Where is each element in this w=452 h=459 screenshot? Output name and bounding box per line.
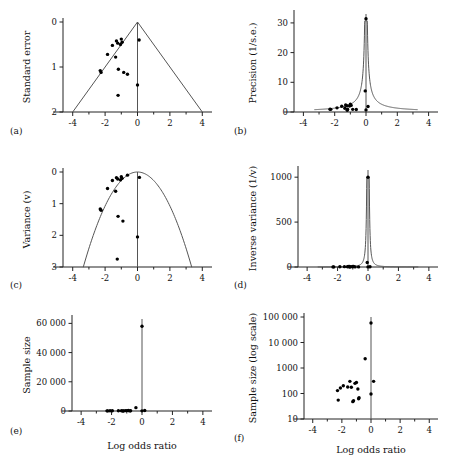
data-point [120, 37, 123, 40]
data-point [350, 386, 353, 389]
y-axis-title: Precision (1/s.e.) [247, 23, 258, 104]
data-point [143, 409, 146, 412]
funnel-boundary [314, 21, 365, 110]
data-point [355, 381, 358, 384]
x-tick-label: 4 [427, 425, 432, 435]
panel-tag: (b) [234, 126, 247, 136]
x-tick-label: 2 [167, 118, 172, 128]
data-point [121, 219, 124, 222]
data-point [369, 392, 372, 395]
plot-e: 020 00040 00060 000-4-2024Sample sizeLog… [0, 301, 226, 459]
data-point [137, 38, 140, 41]
x-tick-label: -4 [69, 273, 77, 283]
y-axis-title: Inverse variance (1/v) [247, 166, 258, 271]
y-tick-label: 0 [52, 167, 57, 177]
x-tick-label: -2 [107, 417, 115, 427]
data-point [366, 105, 369, 108]
data-point [364, 108, 367, 111]
y-tick-label: 500 [276, 217, 292, 227]
data-point [129, 409, 132, 412]
data-point [339, 386, 342, 389]
x-tick-label: 2 [167, 273, 172, 283]
panel-tag: (d) [234, 280, 247, 290]
x-tick-label: 4 [426, 273, 431, 283]
y-tick-label: 1 [52, 199, 57, 209]
x-tick-label: -4 [299, 118, 307, 128]
x-tick-label: -2 [333, 273, 341, 283]
y-tick-label: 2 [52, 230, 57, 240]
data-point [111, 409, 114, 412]
data-point [364, 17, 367, 20]
funnel-plot-figure: 012-4-2024Standard error(a) 0102030-4-20… [0, 0, 452, 459]
panel-d-inverse-variance: 05001000-4-2024Inverse variance (1/v)(d) [226, 148, 452, 301]
data-point [353, 265, 356, 268]
y-axis-title: Sample size (log scale) [247, 313, 258, 423]
x-tick-label: -4 [77, 417, 85, 427]
data-points [105, 325, 146, 413]
funnel-boundary [368, 177, 418, 267]
data-point [136, 83, 139, 86]
data-point [111, 44, 114, 47]
x-tick-label: 4 [200, 273, 205, 283]
data-point [357, 265, 360, 268]
panel-b-precision: 0102030-4-2024Precision (1/s.e.)(b) [226, 0, 452, 148]
x-axis-title: Log odds ratio [336, 444, 406, 455]
data-point [372, 380, 375, 383]
y-tick-label: 20 [277, 48, 288, 58]
y-tick-label: 1000 [270, 172, 292, 182]
x-tick-label: 0 [135, 118, 140, 128]
data-point [106, 187, 109, 190]
y-tick-label: 1 [52, 62, 57, 72]
x-tick-label: -4 [303, 273, 311, 283]
data-point [351, 108, 354, 111]
data-point [136, 235, 139, 238]
x-tick-label: 4 [200, 118, 205, 128]
y-tick-label: 10 [277, 77, 288, 87]
data-point [363, 357, 366, 360]
data-point [117, 409, 120, 412]
x-tick-label: -4 [309, 425, 317, 435]
plot-f: 10100100010 000100 000-4-2024Sample size… [226, 301, 452, 459]
y-tick-label: 30 [277, 18, 288, 28]
data-point [366, 175, 369, 178]
data-point [120, 41, 123, 44]
data-point [99, 71, 102, 74]
data-point [369, 321, 372, 324]
x-tick-label: 0 [135, 273, 140, 283]
data-point [114, 190, 117, 193]
y-tick-label: 100 [282, 389, 298, 399]
y-tick-label: 20 000 [36, 377, 66, 387]
data-point [122, 71, 125, 74]
panel-f-sample-size-log: 10100100010 000100 000-4-2024Sample size… [226, 301, 452, 459]
plot-d: 05001000-4-2024Inverse variance (1/v)(d) [226, 148, 452, 301]
data-point [126, 73, 129, 76]
data-point [134, 406, 137, 409]
panel-tag: (e) [10, 426, 22, 436]
x-tick-label: 4 [200, 417, 205, 427]
y-axis-title: Standard error [21, 30, 32, 103]
data-point [337, 398, 340, 401]
x-tick-label: -2 [331, 118, 339, 128]
x-tick-label: -2 [338, 425, 346, 435]
x-tick-label: 0 [368, 425, 373, 435]
data-point [336, 389, 339, 392]
funnel-boundary [318, 177, 368, 267]
x-tick-label: -4 [69, 118, 77, 128]
data-point [368, 265, 371, 268]
data-point [120, 177, 123, 180]
x-tick-label: 2 [170, 417, 175, 427]
plot-b: 0102030-4-2024Precision (1/s.e.)(b) [226, 0, 452, 148]
data-point [116, 215, 119, 218]
y-axis-title: Variance (v) [21, 191, 32, 250]
y-axis-title: Sample size [21, 336, 32, 394]
x-tick-label: 0 [139, 417, 144, 427]
data-point [357, 396, 360, 399]
x-tick-label: -2 [101, 118, 109, 128]
data-point [355, 108, 358, 111]
data-point [332, 265, 335, 268]
y-tick-label: 10 000 [268, 338, 298, 348]
data-point [348, 380, 351, 383]
data-point [356, 387, 359, 390]
data-point [346, 107, 349, 110]
panel-tag: (c) [10, 280, 22, 290]
